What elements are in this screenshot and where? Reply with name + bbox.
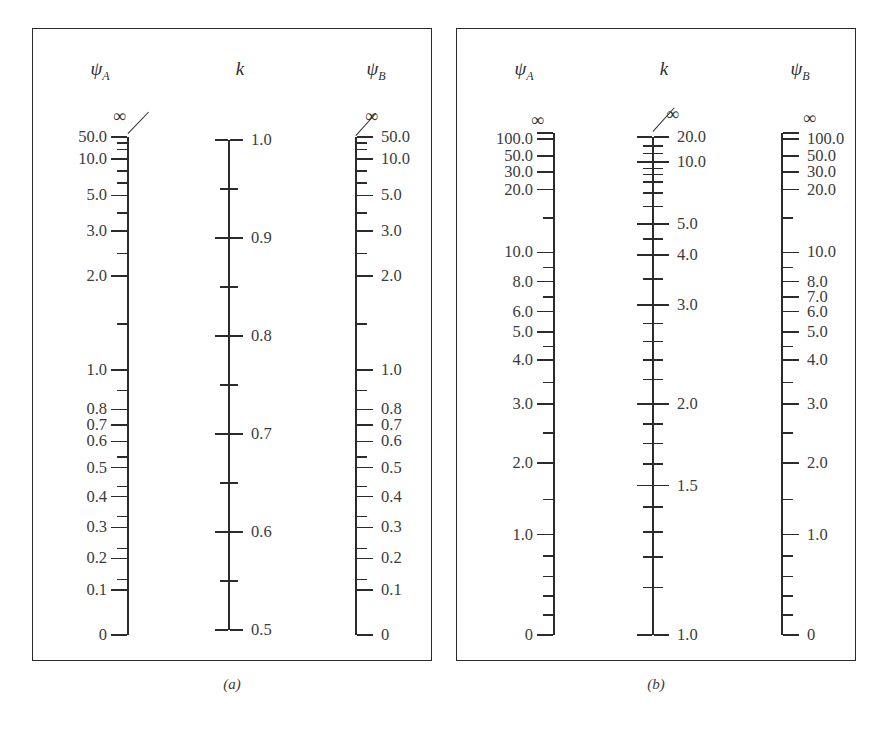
- axis-tick-major: [537, 331, 553, 333]
- axis-tick-major: [654, 485, 669, 487]
- axis-tick-major: [637, 485, 652, 487]
- axis-tick-label: 0.6: [381, 433, 402, 450]
- axis-tick-major: [537, 534, 553, 536]
- panel-b-scale-k: 20.010.05.04.03.02.01.51.0∞: [652, 137, 654, 635]
- axis-tick-label: 0.1: [381, 582, 402, 599]
- axis-tick-label: 3.0: [381, 223, 402, 240]
- axis-tick-label: 2.0: [381, 268, 402, 285]
- axis-tick-label: 0.5: [381, 459, 402, 476]
- axis-cap-bottom: [783, 634, 799, 636]
- axis-tick-major: [215, 335, 228, 337]
- axis-tick-minor: [643, 145, 652, 147]
- axis-tick-major: [215, 629, 228, 631]
- axis-tick-major: [111, 634, 127, 636]
- axis-tick-minor: [643, 323, 652, 325]
- axis-tick-major: [537, 189, 553, 191]
- axis-tick-minor: [643, 587, 652, 589]
- axis-tick-minor: [783, 432, 793, 434]
- axis-tick-label: 5.0: [677, 216, 698, 233]
- axis-tick-minor: [783, 346, 793, 348]
- axis-tick-major: [215, 237, 228, 239]
- axis-tick-label: 3.0: [512, 396, 533, 413]
- axis-tick-label: 8.0: [512, 273, 533, 290]
- axis-tick-major: [783, 296, 799, 298]
- axis-tick-major: [357, 467, 373, 469]
- infinity-symbol: ∞: [113, 107, 126, 125]
- axis-tick-major: [357, 558, 373, 560]
- axis-tick-label: 0.4: [86, 488, 107, 505]
- axis-tick-minor: [543, 595, 553, 597]
- axis-tick-minor: [643, 238, 652, 240]
- axis-tick-major: [111, 467, 127, 469]
- axis-tick-minor: [543, 346, 553, 348]
- axis-tick-minor: [654, 443, 663, 445]
- axis-tick-major: [537, 252, 553, 254]
- axis-tick-minor: [643, 192, 652, 194]
- axis-tick-label: 30.0: [807, 164, 836, 181]
- axis-tick-minor: [220, 580, 228, 582]
- axis-tick-minor: [643, 359, 652, 361]
- axis-tick-minor: [117, 142, 127, 144]
- axis-tick-minor: [654, 556, 663, 558]
- axis-tick-minor: [643, 181, 652, 183]
- panel-b-header-psi-a: ψA: [514, 58, 533, 84]
- axis-tick-minor: [357, 323, 367, 325]
- axis-tick-label: 5.0: [807, 324, 828, 341]
- axis-tick-major: [783, 331, 799, 333]
- axis-tick-minor: [543, 555, 553, 557]
- axis-tick-major: [357, 496, 373, 498]
- axis-tick-minor: [643, 341, 652, 343]
- axis-tick-minor: [543, 382, 553, 384]
- panel-b-header-k: k: [660, 58, 668, 80]
- panel-b-caption: (b): [626, 676, 686, 693]
- axis-tick-minor: [783, 382, 793, 384]
- axis-tick-major: [357, 441, 373, 443]
- axis-tick-major: [111, 158, 127, 160]
- axis-tick-major: [783, 359, 799, 361]
- axis-tick-label: 1.5: [677, 477, 698, 494]
- axis-tick-major: [783, 155, 799, 157]
- axis-tick-minor: [654, 278, 663, 280]
- axis-tick-major: [357, 195, 373, 197]
- axis-tick-major: [230, 139, 243, 141]
- axis-tick-minor: [643, 556, 652, 558]
- axis-tick-label: 1.0: [86, 362, 107, 379]
- axis-tick-major: [111, 195, 127, 197]
- axis-tick-minor: [654, 174, 663, 176]
- axis-tick-label: 4.0: [677, 247, 698, 264]
- axis-tick-major: [637, 403, 652, 405]
- axis-tick-major: [215, 139, 228, 141]
- axis-tick-minor: [783, 614, 793, 616]
- axis-tick-minor: [654, 192, 663, 194]
- axis-tick-label: 3.0: [807, 396, 828, 413]
- axis-tick-label: 2.0: [677, 396, 698, 413]
- axis-tick-minor: [783, 555, 793, 557]
- axis-tick-label: 1.0: [512, 526, 533, 543]
- axis-tick-major: [654, 136, 669, 138]
- axis-tick-label: 0.3: [86, 519, 107, 536]
- axis-tick-major: [537, 359, 553, 361]
- axis-tick-minor: [357, 182, 367, 184]
- axis-tick-major: [230, 629, 243, 631]
- axis-tick-label: 0.5: [86, 459, 107, 476]
- axis-tick-major: [111, 409, 127, 411]
- axis-tick-label: 5.0: [381, 187, 402, 204]
- axis-tick-major: [357, 230, 373, 232]
- axis-tick-minor: [357, 212, 367, 214]
- axis-tick-minor: [230, 482, 238, 484]
- axis-tick-label: 100.0: [496, 131, 533, 148]
- axis-tick-minor: [654, 341, 663, 343]
- axis-tick-major: [357, 634, 373, 636]
- panel-b-scale-psi-b: 100.050.030.020.010.08.07.06.05.04.03.02…: [781, 133, 783, 635]
- axis-tick-major: [783, 252, 799, 254]
- axis-tick-label: 10.0: [504, 244, 533, 261]
- axis-tick-major: [357, 409, 373, 411]
- axis-tick-label: 1.0: [807, 526, 828, 543]
- panel-b-frame: [456, 28, 856, 661]
- axis-tick-major: [111, 558, 127, 560]
- axis-tick-label: 0: [525, 627, 533, 644]
- axis-tick-major: [537, 462, 553, 464]
- panel-a-caption: (a): [202, 676, 262, 693]
- axis-tick-label: 0.9: [251, 230, 272, 247]
- axis-tick-label: 100.0: [807, 131, 844, 148]
